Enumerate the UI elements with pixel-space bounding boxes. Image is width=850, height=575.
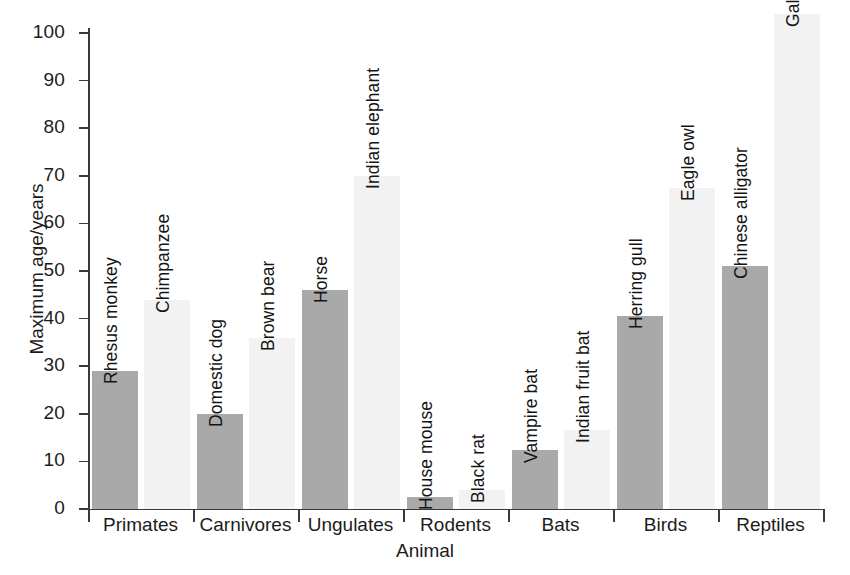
y-axis-tick-label: 0	[5, 497, 65, 519]
y-axis-tick	[79, 223, 88, 225]
category-label: Rodents	[403, 514, 508, 536]
bars-layer: Rhesus monkeyChimpanzeeDomestic dogBrown…	[88, 33, 823, 509]
bar-label: Black rat	[468, 434, 489, 503]
bar-chart: 0102030405060708090100 Rhesus monkeyChim…	[0, 0, 850, 575]
category-label: Bats	[508, 514, 613, 536]
category-label: Ungulates	[298, 514, 403, 536]
bar	[302, 290, 348, 509]
bar	[92, 371, 138, 509]
y-axis-tick	[79, 413, 88, 415]
category-separator-tick	[508, 509, 510, 522]
category-separator-tick	[403, 509, 405, 522]
category-separator-tick	[823, 509, 825, 522]
category-separator-tick	[613, 509, 615, 522]
bar-label: Indian elephant	[363, 68, 384, 189]
bar	[774, 14, 820, 509]
bar-label: Vampire bat	[521, 368, 542, 462]
y-axis-title: Maximum age/years	[26, 69, 48, 469]
category-separator-tick	[88, 509, 90, 522]
bar-label: Indian fruit bat	[573, 331, 594, 444]
bar-label: Brown bear	[258, 260, 279, 351]
y-axis-tick	[79, 318, 88, 320]
bar-label: Eagle owl	[678, 124, 699, 201]
category-label: Birds	[613, 514, 718, 536]
y-axis-tick	[79, 175, 88, 177]
y-axis-tick	[79, 461, 88, 463]
bar-label: Galapagos tortoise	[783, 0, 804, 27]
category-label: Carnivores	[193, 514, 298, 536]
bar	[617, 316, 663, 509]
y-axis-tick	[79, 365, 88, 367]
bar	[197, 414, 243, 509]
bar-label: Chimpanzee	[153, 213, 174, 312]
bar-label: Herring gull	[626, 239, 647, 330]
bar	[249, 338, 295, 509]
y-axis-tick	[79, 270, 88, 272]
bar	[354, 176, 400, 509]
bar	[722, 266, 768, 509]
category-label: Primates	[88, 514, 193, 536]
bar-label: Domestic dog	[206, 319, 227, 427]
category-label: Reptiles	[718, 514, 823, 536]
bar-label: House mouse	[416, 401, 437, 510]
y-axis-tick-label: 100	[5, 21, 65, 43]
y-axis-tick	[79, 127, 88, 129]
bar-label: Rhesus monkey	[101, 257, 122, 384]
y-axis-tick	[79, 32, 88, 34]
category-separator-tick	[193, 509, 195, 522]
y-axis-tick	[79, 508, 88, 510]
x-axis-title: Animal	[0, 540, 850, 562]
bar	[144, 300, 190, 509]
bar	[669, 188, 715, 509]
bar-label: Chinese alligator	[731, 147, 752, 279]
category-separator-tick	[298, 509, 300, 522]
y-axis-tick	[79, 80, 88, 82]
bar-label: Horse	[311, 256, 332, 303]
category-separator-tick	[718, 509, 720, 522]
